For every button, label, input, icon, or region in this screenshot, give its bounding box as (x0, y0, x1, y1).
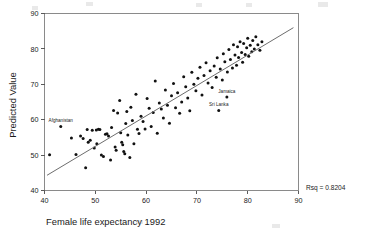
data-point (148, 107, 151, 110)
data-point (137, 132, 140, 135)
data-point (178, 112, 181, 115)
data-point (222, 52, 225, 55)
data-point (109, 159, 112, 162)
data-point (194, 89, 197, 92)
data-point (182, 75, 185, 78)
data-point (118, 99, 121, 102)
x-tick-label: 80 (244, 196, 252, 205)
data-point (121, 143, 124, 146)
data-point (229, 58, 232, 61)
data-point (136, 128, 139, 131)
data-point (131, 119, 134, 122)
data-point (213, 64, 216, 67)
data-point (260, 40, 263, 43)
data-point (226, 70, 229, 73)
data-point (223, 60, 226, 63)
data-point (240, 51, 243, 54)
y-tick-label: 80 (31, 45, 39, 54)
data-point (203, 74, 206, 77)
data-point (112, 109, 115, 112)
x-tick-label: 60 (142, 196, 150, 205)
data-point (239, 40, 242, 43)
data-point (110, 126, 113, 129)
y-axis-ticks (41, 14, 45, 191)
data-point (116, 111, 119, 114)
data-point (59, 125, 62, 128)
data-point (256, 43, 259, 46)
regression-line (47, 28, 293, 176)
data-point (180, 101, 183, 104)
data-point (207, 81, 210, 84)
data-point (158, 102, 161, 105)
data-point (254, 35, 257, 38)
point-label: Jamaica (218, 89, 236, 94)
data-point (251, 39, 254, 42)
data-point (172, 82, 175, 85)
data-point (249, 44, 252, 47)
data-point (231, 67, 234, 70)
y-tick-label: 40 (31, 186, 39, 195)
data-point (146, 97, 149, 100)
data-point (198, 66, 201, 69)
x-tick-label: 90 (295, 196, 303, 205)
y-tick-label: 50 (31, 151, 39, 160)
data-point (134, 93, 137, 96)
y-tick-label: 90 (31, 9, 39, 18)
y-tick-label: 70 (31, 80, 39, 89)
data-point (154, 80, 157, 83)
data-point (126, 133, 129, 136)
data-point (234, 53, 237, 56)
data-point (115, 149, 118, 152)
data-point (124, 122, 127, 125)
data-point (184, 85, 187, 88)
data-point (164, 88, 167, 91)
data-point (190, 71, 193, 74)
data-point (142, 120, 145, 123)
data-point (82, 137, 85, 140)
point-label: Afghanistan (49, 118, 74, 123)
data-point (221, 79, 224, 82)
data-point (186, 97, 189, 100)
data-point (225, 96, 228, 99)
x-tick-label: 70 (193, 196, 201, 205)
data-point (125, 110, 128, 113)
data-point (160, 108, 163, 111)
data-point (227, 48, 230, 51)
data-point (91, 129, 94, 132)
y-tick-label: 60 (31, 115, 39, 124)
data-point (196, 77, 199, 80)
data-point (86, 128, 89, 131)
plot-canvas: AfghanistanJamaicaSri Lanka 405060708090… (0, 0, 366, 238)
data-point (98, 128, 101, 131)
data-point (132, 142, 135, 145)
point-label: Sri Lanka (209, 102, 229, 107)
data-point (200, 93, 203, 96)
data-point (107, 134, 110, 137)
data-point (102, 155, 105, 158)
data-point (75, 153, 78, 156)
data-point (162, 116, 165, 119)
data-point (84, 166, 87, 169)
data-point (168, 122, 171, 125)
data-point (258, 49, 261, 52)
data-point (89, 139, 92, 142)
data-point (236, 45, 239, 48)
data-point (150, 125, 153, 128)
plot-axes (41, 14, 299, 195)
data-point (237, 56, 240, 59)
data-point (70, 137, 73, 140)
data-point (219, 68, 222, 71)
data-point (211, 86, 214, 89)
rsq-annotation: Rsq = 0.8204 (306, 184, 346, 192)
data-point (209, 69, 212, 72)
data-point (205, 61, 208, 64)
data-point (114, 145, 117, 148)
data-point (192, 83, 195, 86)
data-point (79, 134, 82, 137)
data-point (174, 106, 177, 109)
data-point (235, 64, 238, 67)
data-point (144, 127, 147, 130)
data-point (140, 115, 143, 118)
data-point (188, 109, 191, 112)
data-point (170, 94, 173, 97)
